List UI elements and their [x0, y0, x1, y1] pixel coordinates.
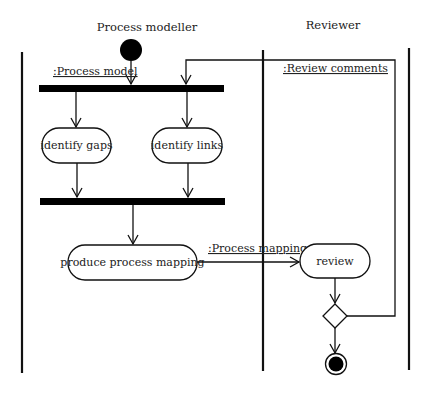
activity-diagram: Process modeller Reviewer :Process model… — [0, 0, 429, 395]
activity-identify-gaps-label: identify gaps — [40, 139, 113, 152]
initial-node — [120, 39, 142, 61]
object-process-model: :Process model — [53, 65, 138, 78]
decision-node — [323, 304, 347, 328]
object-review-comments: :Review comments — [283, 62, 388, 75]
swimlane-header-reviewer: Reviewer — [306, 18, 361, 32]
fork-bar — [39, 85, 224, 92]
activity-produce-process-mapping-label: produce process mapping — [60, 256, 204, 269]
activity-identify-links-label: identify links — [151, 139, 224, 152]
object-process-mapping: :Process mapping — [208, 242, 307, 255]
swimlane-header-modeller: Process modeller — [97, 20, 198, 34]
final-node-dot — [329, 357, 344, 372]
join-bar — [40, 198, 225, 205]
activity-review-label: review — [316, 255, 354, 268]
flow-loop-back — [186, 60, 395, 316]
